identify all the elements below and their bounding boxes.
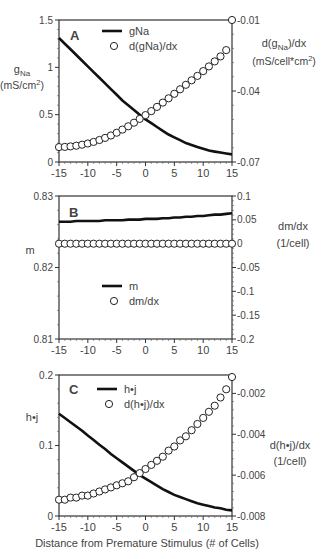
x-axis: -15-10-5051015	[51, 516, 238, 533]
right-tick-label: -0.002	[237, 388, 266, 399]
panel-label: A	[70, 28, 80, 43]
x-tick-label: -10	[80, 344, 96, 356]
right-axis-label: d(h•j)/dx	[270, 439, 311, 451]
right-axis-label: d(gNa)/dx	[262, 37, 307, 52]
left-tick-label: 0	[47, 157, 53, 168]
panel-b: -15-10-50510150.810.820.83-0.2-0.15-0.1-…	[25, 191, 309, 357]
right-tick-label: -0.01	[237, 15, 260, 26]
series-line	[59, 38, 232, 154]
left-tick-label: 0	[47, 511, 53, 522]
x-axis: -15-10-5051015	[51, 162, 238, 179]
legend-label: dm/dx	[129, 295, 159, 307]
left-tick-label: 0.83	[34, 191, 54, 202]
right-tick-label: 0.05	[237, 214, 257, 225]
right-axis-units: (mS/cell*cm2)	[252, 54, 316, 67]
left-tick-label: 0.81	[34, 334, 54, 345]
legend-label: m	[129, 280, 138, 292]
legend-circle-icon	[110, 297, 117, 304]
figure: -15-10-505101500.511.5-0.07-0.04-0.01AgN…	[0, 0, 326, 559]
right-y-axis: -0.07-0.04-0.01	[232, 15, 260, 168]
legend-label: d(h•j)/dx	[124, 398, 165, 410]
panel-a: -15-10-505101500.511.5-0.07-0.04-0.01AgN…	[0, 15, 316, 180]
x-tick-label: 5	[171, 521, 177, 533]
x-tick-label: -5	[112, 344, 122, 356]
x-tick-label: 5	[171, 167, 177, 179]
right-axis-units: (1/cell)	[273, 455, 306, 467]
legend-circle-icon	[110, 42, 117, 49]
right-tick-label: -0.2	[237, 334, 255, 345]
left-y-axis: 0.810.820.83	[34, 191, 59, 345]
right-tick-label: -0.15	[237, 310, 260, 321]
right-tick-label: -0.008	[237, 511, 266, 522]
x-tick-label: 10	[197, 521, 209, 533]
x-tick-label: -15	[51, 344, 67, 356]
left-axis-label: gNa	[14, 63, 31, 78]
right-tick-label: 0.1	[237, 191, 251, 202]
left-tick-label: 1	[47, 62, 53, 73]
x-axis-label: Distance from Premature Stimulus (# of C…	[35, 537, 259, 549]
legend-label: gNa	[129, 25, 150, 37]
x-tick-label: -10	[80, 521, 96, 533]
x-tick-label: 10	[197, 344, 209, 356]
right-tick-label: -0.1	[237, 286, 255, 297]
x-tick-label: -15	[51, 521, 67, 533]
left-tick-label: 0.5	[39, 109, 53, 120]
left-axis-units: (mS/cm2)	[0, 78, 44, 91]
left-tick-label: 0.2	[39, 370, 53, 381]
right-axis-label: dm/dx	[278, 220, 308, 232]
legend-label: d(gNa)/dx	[129, 40, 178, 52]
left-tick-label: 0.82	[34, 262, 54, 273]
legend-circle-icon	[105, 400, 112, 407]
x-tick-label: -5	[112, 521, 122, 533]
left-tick-label: 1.5	[39, 15, 53, 26]
x-tick-label: 15	[226, 521, 238, 533]
right-tick-label: -0.006	[237, 470, 266, 481]
x-tick-label: 0	[142, 167, 148, 179]
x-tick-label: 10	[197, 167, 209, 179]
plot-frame	[59, 196, 232, 339]
panel-label: B	[69, 205, 78, 220]
legend: gNad(gNa)/dx	[102, 25, 178, 52]
right-tick-label: -0.07	[237, 157, 260, 168]
legend: h•jd(h•j)/dx	[97, 383, 165, 410]
x-tick-label: 15	[226, 167, 238, 179]
series-circles	[55, 373, 235, 503]
x-tick-label: 0	[142, 344, 148, 356]
left-tick-label: 0.1	[39, 440, 53, 451]
x-tick-label: 15	[226, 344, 238, 356]
series-circles	[55, 240, 235, 247]
right-tick-label: -0.004	[237, 429, 266, 440]
x-tick-label: 0	[142, 521, 148, 533]
legend: mdm/dx	[102, 280, 159, 307]
right-axis-units: (1/cell)	[276, 237, 309, 249]
panel-label: C	[69, 382, 79, 397]
x-tick-label: -15	[51, 167, 67, 179]
right-tick-label: -0.05	[237, 262, 260, 273]
right-tick-label: 0	[237, 238, 243, 249]
right-tick-label: -0.04	[237, 86, 260, 97]
right-y-axis: -0.008-0.006-0.004-0.002	[232, 388, 266, 522]
series-line	[59, 213, 232, 222]
left-axis-label: h•j	[26, 411, 38, 423]
x-tick-label: 5	[171, 344, 177, 356]
x-tick-label: -5	[112, 167, 122, 179]
left-axis-label: m	[25, 244, 34, 256]
legend-label: h•j	[124, 383, 136, 395]
panel-c: -15-10-505101500.10.2-0.008-0.006-0.004-…	[26, 370, 311, 534]
right-y-axis: -0.2-0.15-0.1-0.0500.050.1	[232, 191, 260, 345]
x-tick-label: -10	[80, 167, 96, 179]
x-axis: -15-10-5051015	[51, 339, 238, 356]
